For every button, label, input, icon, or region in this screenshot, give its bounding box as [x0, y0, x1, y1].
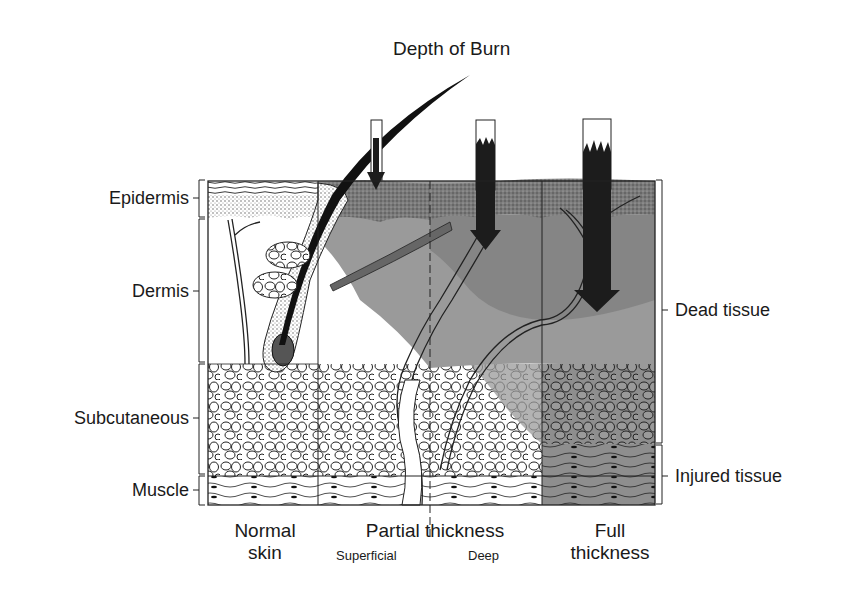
label-muscle: Muscle: [9, 481, 189, 499]
full-line1: Full: [555, 520, 665, 542]
label-injured-tissue: Injured tissue: [675, 467, 782, 485]
left-layer-brackets: [193, 180, 205, 505]
label-normal-skin: Normal skin: [225, 520, 305, 564]
sebaceous-gland: [253, 272, 297, 298]
full-line2: thickness: [555, 542, 665, 564]
full-thickness-muscle: [542, 444, 655, 505]
label-partial-thickness: Partial thickness: [345, 520, 525, 542]
label-subcutaneous: Subcutaneous: [9, 409, 189, 427]
label-superficial: Superficial: [336, 549, 397, 562]
normal-line1: Normal: [225, 520, 305, 542]
label-dermis: Dermis: [9, 282, 189, 300]
normal-line2: skin: [225, 542, 305, 564]
label-dead-tissue: Dead tissue: [675, 301, 770, 319]
epidermis-stratum: [208, 181, 318, 195]
right-zone-brackets: [656, 180, 668, 504]
epidermis-basal: [208, 195, 318, 220]
diagram-title: Depth of Burn: [393, 39, 510, 58]
full-thickness-fat: [542, 364, 655, 444]
label-deep: Deep: [468, 549, 499, 562]
label-epidermis: Epidermis: [9, 189, 189, 207]
sebaceous-gland: [266, 242, 310, 268]
label-full-thickness: Full thickness: [555, 520, 665, 564]
